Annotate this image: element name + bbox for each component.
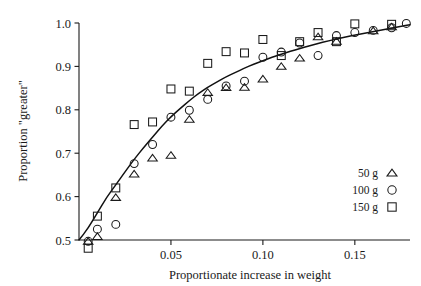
chart-canvas: 0.50.60.70.80.91.0 0.050.100.15 Proporti… bbox=[0, 0, 421, 286]
y-tick-label: 0.8 bbox=[55, 103, 71, 117]
y-axis-label: Proportion "greater" bbox=[16, 80, 30, 182]
legend-label-150g: 150 g bbox=[352, 201, 378, 214]
y-tick-label: 1.0 bbox=[55, 17, 71, 31]
x-tick-label: 0.10 bbox=[252, 248, 274, 262]
legend-label-100g: 100 g bbox=[352, 184, 378, 197]
x-tick-label: 0.15 bbox=[344, 248, 366, 262]
y-tick-label: 0.5 bbox=[55, 234, 71, 248]
legend-label-50g: 50 g bbox=[358, 167, 378, 180]
figure: 0.50.60.70.80.91.0 0.050.100.15 Proporti… bbox=[0, 0, 421, 286]
x-axis-label: Proportionate increase in weight bbox=[169, 268, 332, 282]
y-tick-label: 0.7 bbox=[55, 147, 71, 161]
y-tick-label: 0.9 bbox=[55, 60, 71, 74]
y-tick-label: 0.6 bbox=[55, 190, 71, 204]
x-tick-label: 0.05 bbox=[160, 248, 182, 262]
